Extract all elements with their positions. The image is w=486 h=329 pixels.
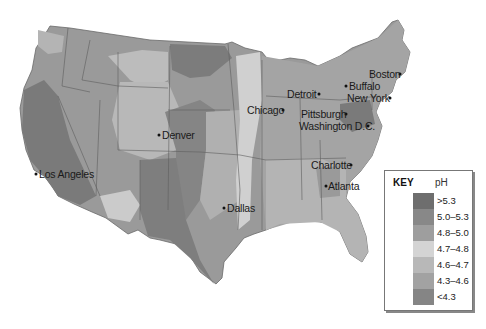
legend-label: <4.3 (437, 291, 456, 302)
legend-swatch (413, 241, 434, 257)
map-legend: KEY pH >5.3 5.0–5.3 4.8–5.0 4.7–4.8 4.6–… (384, 170, 473, 311)
city-label-new-york: New York (347, 92, 390, 104)
city-label-atlanta: Atlanta (328, 180, 359, 192)
legend-swatch (413, 273, 434, 289)
legend-row: 4.8–5.0 (413, 225, 473, 241)
legend-label: 4.6–4.7 (437, 259, 469, 270)
legend-row: 4.6–4.7 (413, 257, 473, 273)
legend-unit: pH (435, 177, 448, 188)
legend-swatch (413, 193, 434, 209)
legend-label: 5.0–5.3 (437, 211, 469, 222)
legend-swatch (413, 257, 434, 273)
legend-label: 4.3–4.6 (437, 275, 469, 286)
city-label-washington-dc: Washington D.C. (299, 120, 375, 132)
city-label-charlotte: Charlotte (311, 159, 352, 171)
legend-label: 4.7–4.8 (437, 243, 469, 254)
legend-row: 5.0–5.3 (413, 209, 473, 225)
legend-row: 4.7–4.8 (413, 241, 473, 257)
legend-label: >5.3 (437, 195, 456, 206)
legend-row: 4.3–4.6 (413, 273, 473, 289)
city-label-los-angeles: Los Angeles (39, 168, 94, 180)
legend-label: 4.8–5.0 (437, 227, 469, 238)
city-label-dallas: Dallas (227, 202, 255, 214)
city-label-detroit: Detroit (287, 88, 317, 100)
city-label-boston: Boston (369, 68, 401, 80)
legend-title: KEY (393, 177, 414, 188)
city-label-chicago: Chicago (247, 104, 284, 116)
legend-swatch (413, 289, 434, 305)
legend-swatch (413, 225, 434, 241)
city-label-pittsburgh: Pittsburgh (301, 108, 346, 120)
city-label-buffalo: Buffalo (349, 80, 380, 92)
legend-swatch (413, 209, 434, 225)
legend-row: >5.3 (413, 193, 473, 209)
city-label-denver: Denver (162, 129, 195, 141)
legend-row: <4.3 (413, 289, 473, 305)
